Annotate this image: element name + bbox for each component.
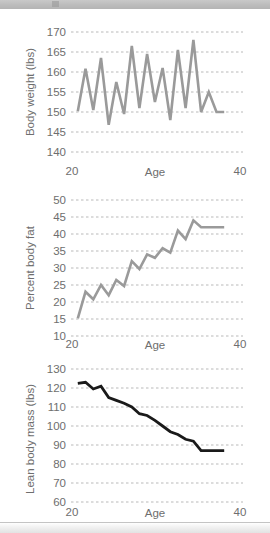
ytick-label: 20 [53, 296, 66, 308]
x-axis-title: Age [145, 507, 165, 519]
xtick-label: 40 [234, 338, 247, 350]
gridlines-percent-body-fat [71, 200, 243, 336]
lean-body-mass-series [78, 382, 224, 450]
ytick-label: 145 [47, 126, 66, 138]
y-axis-title: Lean body mass (lbs) [24, 384, 36, 494]
ytick-label: 160 [47, 66, 66, 78]
ytick-label: 60 [53, 496, 66, 508]
y-axis-ticks-lean-body-mass: 130 120 110 100 90 80 70 60 [47, 363, 66, 508]
ytick-label: 40 [53, 228, 66, 240]
ytick-label: 90 [53, 439, 66, 451]
ytick-label: 15 [53, 313, 66, 325]
y-axis-title: Body weight (lbs) [24, 48, 36, 136]
xtick-label: 20 [66, 338, 79, 350]
ytick-label: 150 [47, 106, 66, 118]
ytick-label: 120 [47, 382, 66, 394]
ytick-label: 70 [53, 477, 66, 489]
percent-body-fat-series [78, 220, 224, 318]
chart-panel-lean-body-mass: 130 120 110 100 90 80 70 60 20 40 Age Le… [0, 351, 270, 522]
ytick-label: 35 [53, 245, 66, 257]
chart-panel-body-weight: 170 165 160 155 150 145 140 20 40 Age Bo… [0, 9, 270, 180]
ytick-label: 165 [47, 46, 66, 58]
ytick-label: 110 [48, 401, 66, 413]
y-axis-title: Percent body fat [24, 225, 36, 310]
lean-body-mass-chart: 130 120 110 100 90 80 70 60 20 40 Age Le… [0, 351, 270, 522]
ytick-label: 45 [53, 211, 66, 223]
ytick-label: 170 [47, 26, 66, 38]
ytick-label: 130 [47, 363, 66, 375]
ytick-label: 30 [53, 262, 66, 274]
figure-container: 170 165 160 155 150 145 140 20 40 Age Bo… [0, 9, 270, 522]
x-axis-title: Age [145, 166, 165, 178]
ytick-label: 25 [53, 279, 66, 291]
xtick-label: 40 [234, 165, 247, 177]
x-axis-title: Age [145, 339, 165, 351]
y-axis-ticks-body-weight: 170 165 160 155 150 145 140 [47, 26, 66, 158]
status-bar [0, 522, 270, 533]
ytick-label: 140 [47, 146, 66, 158]
toolbar-handle-icon[interactable] [52, 1, 59, 7]
y-axis-ticks-percent-body-fat: 50 45 40 35 30 25 20 15 10 [53, 194, 66, 342]
ytick-label: 10 [53, 330, 66, 342]
ytick-label: 155 [47, 86, 66, 98]
ytick-label: 80 [53, 458, 66, 470]
ytick-label: 50 [53, 194, 66, 206]
xtick-label: 20 [66, 506, 79, 518]
xtick-label: 40 [234, 506, 247, 518]
body-weight-chart: 170 165 160 155 150 145 140 20 40 Age Bo… [0, 9, 270, 180]
chart-panel-percent-body-fat: 50 45 40 35 30 25 20 15 10 20 40 Age Per… [0, 180, 270, 351]
ytick-label: 100 [47, 420, 66, 432]
percent-body-fat-chart: 50 45 40 35 30 25 20 15 10 20 40 Age Per… [0, 180, 270, 351]
xtick-label: 20 [66, 165, 79, 177]
